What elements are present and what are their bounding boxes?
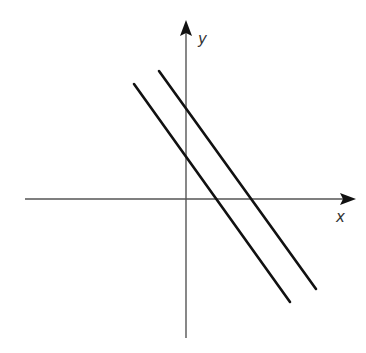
y-axis-label: y [197, 30, 208, 48]
line-1 [134, 84, 290, 302]
coordinate-diagram: y x [0, 0, 366, 353]
y-axis [180, 20, 192, 338]
line-2 [159, 71, 316, 289]
x-axis-label: x [335, 208, 345, 226]
x-axis [25, 193, 356, 205]
